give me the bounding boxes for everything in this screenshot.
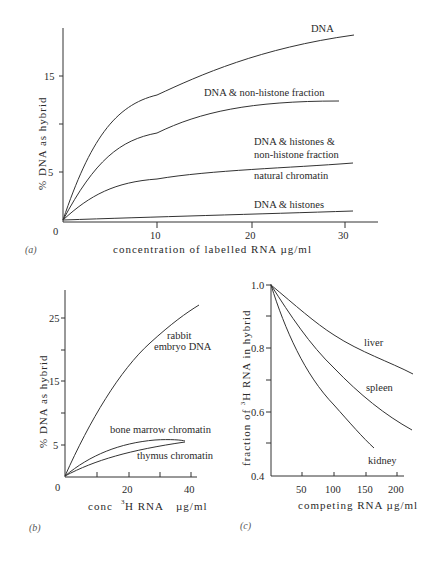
chart-b-ytick-label: 5 <box>53 440 58 451</box>
chart-b-label-rabbit-2: embryo DNA <box>154 341 212 352</box>
chart-c-xtick-label: 150 <box>357 484 373 495</box>
chart-a-label-hist-nonhist-2: non-histone fraction <box>254 149 340 160</box>
chart-b-label-rabbit-1: rabbit <box>167 330 192 341</box>
chart-c-y-axis-label-pre: fraction of <box>240 405 252 466</box>
chart-c-label-spleen: spleen <box>366 382 394 393</box>
chart-b-label-bone-marrow: bone marrow chromatin <box>110 424 212 435</box>
chart-a-ytick-label: 15 <box>44 71 55 82</box>
chart-b-origin-label: 0 <box>55 482 60 493</box>
chart-a-xtick-label: 30 <box>338 230 349 241</box>
chart-a-label-dna-nonhistone: DNA & non-histone fraction <box>204 87 325 98</box>
chart-c-y-axis-label-post: H RNA in hybrid <box>240 310 252 401</box>
chart-b-x-axis-label-conc: conc <box>88 500 113 512</box>
chart-c-ytick-label: 0.8 <box>251 343 264 354</box>
chart-a-panel-label: (a) <box>25 244 37 256</box>
chart-b-panel-label: (b) <box>29 522 41 534</box>
chart-c-xtick-label: 200 <box>388 484 404 495</box>
chart-b-label-thymus: thymus chromatin <box>137 450 214 461</box>
chart-c-xtick-label: 100 <box>325 484 341 495</box>
chart-b-x-axis-label-unit: µg/ml <box>176 500 208 512</box>
chart-a-series-dna <box>63 35 354 220</box>
chart-c-panel-label: (c) <box>240 520 252 532</box>
chart-a-series-dna-histones <box>63 211 353 220</box>
chart-a-label-natural-chromatin: natural chromatin <box>254 170 329 181</box>
chart-b-x-axis-label-rna: H RNA <box>125 500 164 512</box>
chart-a-ytick-label: 5 <box>48 167 53 178</box>
chart-a: 15 5 0 10 20 30 concentration of labelle… <box>25 23 378 256</box>
chart-c-ytick-label: 0.4 <box>251 471 265 482</box>
figure: 15 5 0 10 20 30 concentration of labelle… <box>0 0 436 561</box>
chart-a-label-hist-nonhist-1: DNA & histones & <box>254 136 335 147</box>
chart-c-label-kidney: kidney <box>368 455 397 466</box>
chart-a-origin-label: 0 <box>53 226 58 237</box>
chart-c-xtick-label: 50 <box>296 484 307 495</box>
chart-b-x-axis-label: conc 3 H RNA µg/ml <box>88 498 208 512</box>
chart-b-xtick-label: 40 <box>184 484 195 495</box>
chart-c-ytick-label: 0.6 <box>251 407 264 418</box>
chart-c: 1.0 0.8 0.6 0.4 50 100 150 200 competing… <box>239 280 418 532</box>
chart-c-x-axis-label: competing RNA µg/ml <box>298 499 418 511</box>
chart-c-y-axis-label-text: fraction of 3H RNA in hybrid <box>239 310 252 466</box>
chart-b: 25 15 5 0 20 40 conc 3 H RNA µg/ml % DNA… <box>29 290 214 534</box>
chart-b-xtick-label: 20 <box>122 484 133 495</box>
chart-a-xtick-label: 10 <box>150 230 161 241</box>
chart-a-label-dna-histones: DNA & histones <box>254 199 324 210</box>
chart-c-label-liver: liver <box>364 337 384 348</box>
chart-c-series-spleen <box>271 285 412 430</box>
chart-b-y-axis-label: % DNA as hybrid <box>37 354 49 448</box>
chart-c-y-axis-label: fraction of 3H RNA in hybrid <box>239 310 252 466</box>
chart-c-series-liver <box>271 285 413 374</box>
chart-c-ytick-label: 1.0 <box>251 280 264 291</box>
chart-b-ytick-label: 25 <box>49 313 60 324</box>
chart-b-ytick-label: 15 <box>49 376 60 387</box>
chart-a-y-axis-label: % DNA as hybrid <box>36 96 48 190</box>
chart-a-label-dna: DNA <box>311 23 334 34</box>
chart-a-x-axis-label: concentration of labelled RNA µg/ml <box>113 243 312 255</box>
chart-a-xtick-label: 20 <box>245 230 256 241</box>
